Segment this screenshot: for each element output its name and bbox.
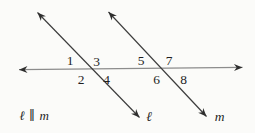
angle-label-6: 6 — [153, 72, 160, 87]
horizontal-line — [19, 67, 243, 69]
line-m-label: m — [215, 109, 225, 124]
geometry-figure: 1 2 3 4 5 6 7 8 ℓ m ℓ ∥ m — [0, 0, 255, 133]
parallel-lines-diagram: 1 2 3 4 5 6 7 8 ℓ m ℓ ∥ m — [0, 0, 255, 133]
angle-label-1: 1 — [67, 53, 74, 68]
angle-label-2: 2 — [78, 72, 85, 87]
angle-label-3: 3 — [93, 54, 100, 69]
given-statement: ℓ ∥ m — [20, 108, 50, 123]
angle-label-7: 7 — [166, 53, 173, 68]
line-l-label: ℓ — [146, 109, 152, 124]
angle-label-8: 8 — [180, 72, 187, 87]
angle-label-5: 5 — [138, 53, 145, 68]
angle-label-4: 4 — [103, 72, 110, 87]
